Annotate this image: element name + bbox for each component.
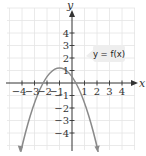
svg-text:1: 1 (63, 65, 69, 76)
function-graph: x y −4 −3 −2 −1 1 2 3 4 4 3 2 1 −1 −2 −3… (0, 0, 146, 156)
svg-text:2: 2 (63, 53, 69, 64)
x-axis-label: x (139, 77, 146, 90)
svg-text:2: 2 (94, 86, 100, 97)
curve-right-arrow-icon (95, 146, 100, 153)
svg-text:3: 3 (63, 40, 69, 51)
svg-text:3: 3 (106, 86, 112, 97)
y-axis-label: y (66, 0, 74, 12)
svg-text:4: 4 (63, 28, 69, 39)
svg-text:−1: −1 (54, 90, 69, 101)
svg-text:−4: −4 (54, 128, 69, 139)
svg-text:1: 1 (81, 86, 87, 97)
svg-text:4: 4 (119, 86, 125, 97)
svg-text:−2: −2 (54, 103, 69, 114)
axes (6, 14, 134, 151)
svg-text:−3: −3 (54, 115, 69, 126)
function-callout: y = f(x) (86, 45, 125, 62)
function-label: y = f(x) (93, 49, 125, 59)
